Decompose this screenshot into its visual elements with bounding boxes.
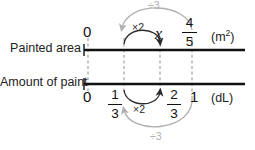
tick-label-bottom-one: 1 — [190, 89, 198, 104]
numerator-one: 1 — [108, 88, 122, 103]
painted-area-number-line — [84, 44, 245, 56]
tick-label-bottom-two-thirds: 2 3 — [167, 88, 181, 120]
unit-open: (m — [211, 30, 226, 44]
operation-label-bottom-divide-three: ÷3 — [150, 131, 162, 142]
numerator-four: 4 — [182, 16, 197, 31]
painted-area-axis-label: Painted area — [0, 42, 81, 55]
operation-label-top-times-two: ×2 — [132, 22, 144, 33]
denominator-three: 3 — [167, 106, 181, 121]
arc-bottom-times-two — [124, 90, 160, 104]
amount-of-paint-unit: (dL) — [211, 92, 233, 105]
tick-label-bottom-one-third: 1 3 — [108, 88, 122, 120]
double-number-line-diagram: Painted area Amount of paint 0 x 4 5 (m2… — [0, 0, 255, 150]
tick-label-top-zero: 0 — [83, 24, 91, 39]
unit-close: ) — [230, 30, 234, 44]
painted-area-unit: (m2) — [211, 29, 234, 44]
tick-label-top-four-fifths: 4 5 — [182, 16, 197, 48]
amount-of-paint-axis-label: Amount of paint — [0, 76, 81, 89]
operation-label-top-divide-three: ÷3 — [148, 0, 160, 11]
fraction-bar — [108, 104, 122, 105]
tick-label-bottom-zero: 0 — [83, 89, 91, 104]
fraction-bar — [182, 32, 197, 33]
denominator-three: 3 — [108, 106, 122, 121]
operation-label-bottom-times-two: ×2 — [133, 104, 145, 115]
fraction-bar — [167, 104, 181, 105]
numerator-two: 2 — [167, 88, 181, 103]
tick-label-top-unknown: x — [155, 26, 162, 42]
denominator-five: 5 — [182, 34, 197, 49]
